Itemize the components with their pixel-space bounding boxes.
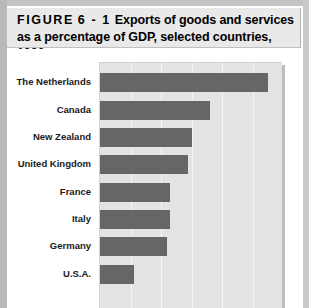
bars-group <box>100 63 282 308</box>
category-label: United Kingdom <box>3 158 91 169</box>
bar <box>100 237 167 256</box>
figure-title-banner: FIGURE6 - 1Exports of goods and services… <box>7 8 301 48</box>
category-label: The Netherlands <box>3 76 91 87</box>
bar <box>100 101 210 120</box>
page-edge-right <box>303 0 309 308</box>
category-label: Germany <box>3 240 91 251</box>
category-label: Canada <box>3 104 91 115</box>
category-axis-labels: The NetherlandsCanadaNew ZealandUnited K… <box>7 62 95 308</box>
category-label: New Zealand <box>3 131 91 142</box>
bar <box>100 73 268 92</box>
category-label: France <box>3 186 91 197</box>
page-edge-left <box>0 0 7 308</box>
bar <box>100 265 134 284</box>
figure-panel: FIGURE6 - 1Exports of goods and services… <box>0 0 309 308</box>
category-label: Italy <box>3 213 91 224</box>
plot-shadow <box>282 65 285 308</box>
bar <box>100 155 188 174</box>
category-label: U.S.A. <box>3 268 91 279</box>
chart-area: The NetherlandsCanadaNew ZealandUnited K… <box>7 49 301 308</box>
figure-number: 6 - 1 <box>78 13 111 27</box>
plot-area <box>99 62 282 308</box>
bar <box>100 210 170 229</box>
page-edge-top <box>0 0 309 6</box>
figure-number-prefix: FIGURE <box>17 13 74 27</box>
bar <box>100 128 192 147</box>
bar <box>100 183 170 202</box>
